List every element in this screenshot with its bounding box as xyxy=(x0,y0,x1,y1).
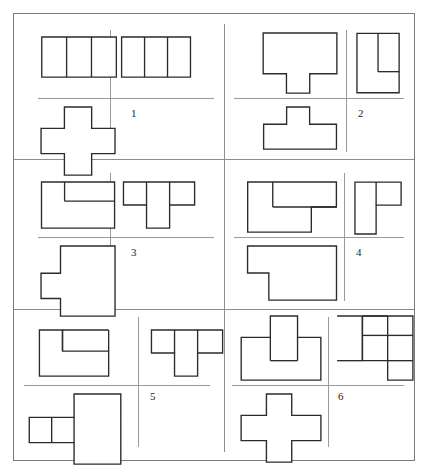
problem-cell-5[interactable]: 5 xyxy=(14,309,224,452)
quadrant-line-horizontal xyxy=(24,385,210,386)
top-view-4 xyxy=(246,245,340,303)
top-view-2 xyxy=(262,106,340,152)
side-view-3 xyxy=(122,181,198,231)
side-view-1 xyxy=(120,36,194,80)
problem-cell-1[interactable]: 1 xyxy=(14,14,224,159)
front-view-6 xyxy=(240,315,324,383)
front-view-5 xyxy=(38,329,112,379)
cell-number-4: 4 xyxy=(356,247,362,258)
quadrant-line-vertical xyxy=(328,317,329,447)
side-view-4 xyxy=(354,181,404,237)
quadrant-line-vertical xyxy=(344,173,345,301)
front-view-2 xyxy=(262,32,340,96)
quadrant-line-horizontal xyxy=(234,237,404,238)
side-view-5 xyxy=(150,329,226,379)
problem-cell-6[interactable]: 6 xyxy=(224,309,414,452)
cell-number-5: 5 xyxy=(150,391,156,402)
front-view-1 xyxy=(40,36,120,80)
cell-number-6: 6 xyxy=(338,391,344,402)
top-view-6 xyxy=(240,393,324,465)
quadrant-line-vertical xyxy=(138,317,139,447)
cell-number-1: 1 xyxy=(131,108,137,119)
problem-cell-3[interactable]: 3 xyxy=(14,159,224,309)
exercise-sheet-page: 1 2 3 4 5 xyxy=(0,0,428,474)
quadrant-line-horizontal xyxy=(38,237,214,238)
front-view-4 xyxy=(246,181,340,235)
side-view-2 xyxy=(356,32,402,96)
cell-number-3: 3 xyxy=(131,247,137,258)
top-view-3 xyxy=(40,245,118,319)
quadrant-line-horizontal xyxy=(38,98,214,99)
front-view-3 xyxy=(40,181,118,231)
top-view-5 xyxy=(28,393,124,467)
quadrant-line-horizontal xyxy=(234,98,404,99)
problem-cell-2[interactable]: 2 xyxy=(224,14,414,159)
quadrant-line-horizontal xyxy=(232,385,404,386)
quadrant-line-vertical xyxy=(346,30,347,152)
cell-number-2: 2 xyxy=(358,108,364,119)
problem-cell-4[interactable]: 4 xyxy=(224,159,414,309)
side-view-6 xyxy=(336,315,416,383)
